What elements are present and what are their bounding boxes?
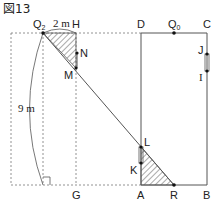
label-q0: Q0 bbox=[168, 18, 181, 31]
point-k bbox=[139, 161, 142, 164]
mirror-diagram: 図13 Q2 2 m H D Q bbox=[0, 0, 218, 206]
point-j bbox=[205, 52, 208, 55]
point-q2 bbox=[41, 31, 45, 35]
label-r: R bbox=[170, 189, 178, 201]
point-l bbox=[139, 145, 142, 148]
label-2m: 2 m bbox=[53, 17, 70, 29]
point-n bbox=[75, 51, 78, 54]
point-m bbox=[74, 66, 77, 69]
point-q0 bbox=[172, 31, 176, 35]
label-m: M bbox=[64, 69, 73, 81]
point-i bbox=[205, 69, 208, 72]
label-k: K bbox=[130, 164, 138, 176]
sight-line-q2-r bbox=[43, 33, 174, 185]
figure-title: 図13 bbox=[3, 2, 30, 16]
point-r bbox=[172, 183, 176, 187]
label-b: B bbox=[203, 189, 210, 201]
right-angle-marker bbox=[43, 177, 50, 185]
label-c: C bbox=[203, 18, 211, 30]
label-9m: 9 m bbox=[18, 102, 35, 114]
label-g: G bbox=[72, 189, 81, 201]
label-j: J bbox=[198, 44, 204, 56]
label-i: I bbox=[199, 71, 203, 83]
label-n: N bbox=[80, 47, 88, 59]
label-d: D bbox=[137, 18, 145, 30]
label-q2: Q2 bbox=[33, 18, 46, 31]
label-h: H bbox=[72, 18, 80, 30]
label-a: A bbox=[137, 189, 145, 201]
label-l: L bbox=[144, 136, 150, 148]
